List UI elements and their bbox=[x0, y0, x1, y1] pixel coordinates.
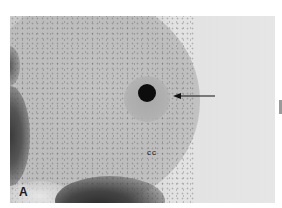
micrograph-panel: cc A bbox=[10, 16, 275, 203]
cc-label: cc bbox=[147, 148, 157, 157]
panel-label: A bbox=[19, 185, 28, 199]
arrow-left-icon bbox=[173, 93, 215, 99]
oocyte bbox=[138, 84, 156, 102]
adjacent-panel-edge bbox=[279, 100, 282, 114]
